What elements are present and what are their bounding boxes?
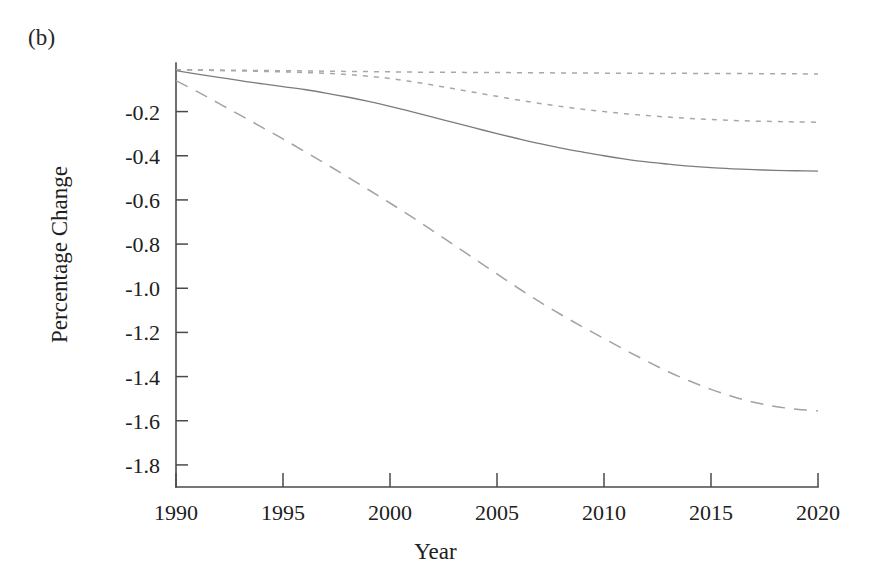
y-tick-label: -0.4 [125, 144, 160, 169]
x-tick-label: 2005 [475, 500, 519, 525]
x-tick-label: 2010 [582, 500, 626, 525]
y-tick-label: -1.2 [125, 320, 160, 345]
y-tick-label: -0.2 [125, 100, 160, 125]
series-dotted-declining [176, 70, 818, 123]
x-tick-label: 2000 [368, 500, 412, 525]
axis-lines [176, 63, 818, 487]
series-solid [176, 71, 818, 171]
y-tick-label: -1.8 [125, 453, 160, 478]
y-tick-marks [176, 112, 188, 465]
y-tick-label: -1.0 [125, 276, 160, 301]
data-series-group [176, 70, 818, 411]
x-tick-label: 1995 [261, 500, 305, 525]
y-tick-label: -1.6 [125, 409, 160, 434]
x-tick-label: 2015 [689, 500, 733, 525]
line-chart-plot: -0.2-0.4-0.6-0.8-1.0-1.2-1.4-1.6-1.8 199… [0, 0, 871, 587]
x-tick-label: 2020 [796, 500, 840, 525]
x-tick-marks [176, 473, 818, 487]
y-tick-label: -1.4 [125, 365, 160, 390]
x-tick-labels: 1990199520002005201020152020 [154, 500, 840, 525]
series-dashed [176, 81, 818, 411]
y-tick-labels: -0.2-0.4-0.6-0.8-1.0-1.2-1.4-1.6-1.8 [125, 100, 160, 478]
y-tick-label: -0.6 [125, 188, 160, 213]
x-tick-label: 1990 [154, 500, 198, 525]
y-tick-label: -0.8 [125, 232, 160, 257]
series-dotted-flat [176, 70, 818, 74]
figure-panel-b: (b) Percentage Change Year -0.2-0.4-0.6-… [0, 0, 871, 587]
